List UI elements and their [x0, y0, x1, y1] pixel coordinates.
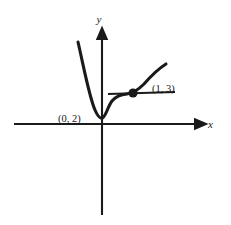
- y-axis-label: y: [96, 13, 102, 25]
- tangent-point-label: (1, 3): [152, 83, 175, 95]
- function-curve: [78, 42, 166, 118]
- plot-canvas: y x (0, 2) (1, 3): [0, 0, 231, 225]
- x-axis-label: x: [207, 118, 213, 130]
- graph-figure: y x (0, 2) (1, 3): [0, 0, 231, 225]
- y-intercept-label: (0, 2): [58, 113, 81, 125]
- tangent-point-marker: [128, 88, 137, 97]
